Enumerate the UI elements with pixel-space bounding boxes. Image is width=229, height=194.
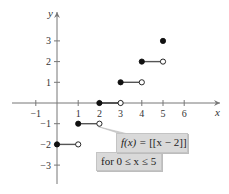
x-tick-label: 3 [118, 108, 123, 119]
x-tick-label: 1 [76, 108, 81, 119]
x-tick-label: 2 [97, 108, 102, 119]
y-tick-label: −2 [40, 139, 51, 150]
y-tick-label: 2 [46, 56, 51, 67]
y-tick-label: −3 [40, 160, 51, 171]
x-axis-label: x [214, 106, 220, 118]
closed-endpoint [97, 100, 102, 105]
open-endpoint [76, 142, 81, 147]
closed-endpoint [139, 59, 144, 64]
open-endpoint [139, 80, 144, 85]
y-tick-label: 1 [46, 77, 51, 88]
open-endpoint [160, 59, 165, 64]
open-endpoint [97, 121, 102, 126]
closed-endpoint [160, 38, 165, 43]
open-endpoint [118, 100, 123, 105]
y-tick-label: −1 [40, 118, 51, 129]
domain-label-callout: for 0 ≤ x ≤ 5 [96, 152, 162, 171]
y-tick-label: 3 [46, 35, 51, 46]
closed-endpoint [76, 121, 81, 126]
function-label-callout: f(x) = [[x − 2]] [116, 133, 188, 153]
closed-endpoint [118, 80, 123, 85]
closed-endpoint [54, 142, 59, 147]
function-label-body: [[x − 2]] [149, 136, 186, 148]
x-tick-label: 6 [182, 108, 187, 119]
x-tick-label: 4 [139, 108, 144, 119]
x-tick-label: 5 [161, 108, 166, 119]
function-label-prefix: f(x) = [121, 136, 149, 148]
y-axis-label: y [47, 7, 53, 19]
